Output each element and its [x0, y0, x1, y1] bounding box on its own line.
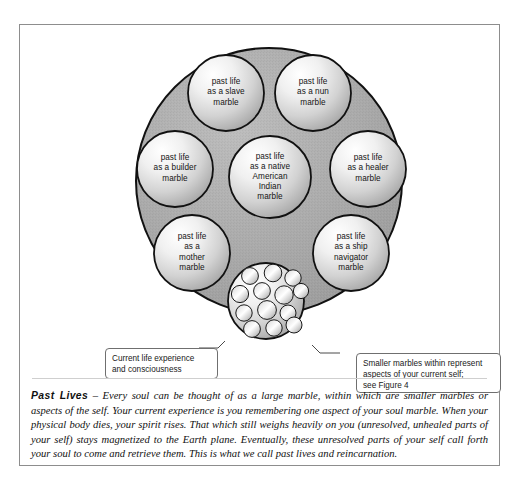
- aspect-marble-cluster[interactable]: [228, 263, 309, 339]
- diagram-stage: past life as a slave marble past life as…: [20, 25, 501, 377]
- past-life-marble-builder[interactable]: [137, 131, 213, 207]
- caption-divider: [32, 378, 487, 379]
- past-life-marble-nun[interactable]: [275, 55, 351, 131]
- past-life-marble-slave[interactable]: [188, 55, 264, 131]
- marble-diagram-svg: [20, 25, 501, 377]
- figure-frame: past life as a slave marble past life as…: [19, 24, 500, 466]
- caption-term: Past Lives: [31, 390, 88, 401]
- caption-dash: –: [88, 390, 102, 401]
- callout-current-life: Current life experience and consciousnes…: [105, 348, 218, 379]
- past-life-marble-mother[interactable]: [154, 215, 230, 291]
- figure-caption: Past Lives – Every soul can be thought o…: [31, 389, 488, 462]
- callout-smaller-marbles: Smaller marbles within represent aspects…: [356, 353, 501, 393]
- past-life-marble-navigator[interactable]: [313, 215, 389, 291]
- past-life-marble-native-american[interactable]: [229, 136, 311, 218]
- past-life-marble-healer[interactable]: [330, 131, 406, 207]
- figure-root: past life as a slave marble past life as…: [0, 0, 518, 490]
